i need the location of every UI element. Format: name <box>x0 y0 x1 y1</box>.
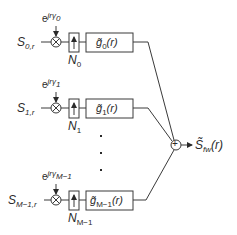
branch-0-phase-label: ejrγ0 <box>42 12 60 24</box>
branch-1-phase-label: ejrγ1 <box>42 78 60 90</box>
branch-0-input-label: S0,r <box>17 36 34 51</box>
summer-plus-label: + <box>172 139 178 149</box>
branch-1-filter-label: g̃1(r) <box>96 103 118 117</box>
branch-m-1-upsample-label: NM−1 <box>68 212 92 227</box>
output-label: S̃fw(r) <box>195 139 223 154</box>
branch-m-1-input-label: SM−1,r <box>8 194 37 209</box>
ellipsis-dots <box>100 135 102 171</box>
branch-1-input-label: S1,r <box>17 102 34 117</box>
branch-m-1-phase-label: ejrγM−1 <box>42 170 72 182</box>
branch-m-1-filter-label: g̃M−1(r) <box>90 195 123 209</box>
branch-0-upsample-label: N0 <box>68 54 81 69</box>
branch-0-filter-label: g̃0(r) <box>96 37 118 51</box>
branch-1-upsample-label: N1 <box>68 120 81 135</box>
